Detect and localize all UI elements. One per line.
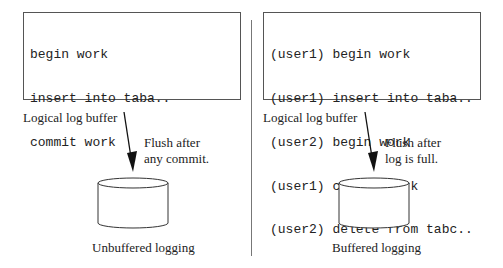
left-flush-arrow-icon (124, 112, 137, 172)
diagram-graphics (0, 0, 503, 268)
right-flush-arrow-icon (365, 112, 378, 172)
right-logical-log-cylinder-icon (339, 178, 409, 228)
left-logical-log-cylinder-icon (98, 178, 168, 228)
